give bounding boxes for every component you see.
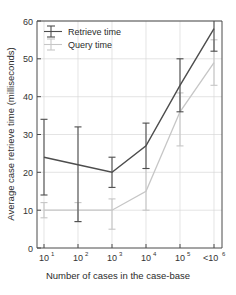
y-tick-label-60: 60 [23, 17, 33, 27]
x-tick-base-3: 10 [107, 253, 117, 263]
y-tick-label-50: 50 [23, 54, 33, 64]
x-tick-base-6: <10 [203, 253, 218, 263]
y-tick-label-40: 40 [23, 92, 33, 102]
x-tick-base-5: 10 [175, 253, 185, 263]
legend-label-retrieve-time: Retrieve time [68, 27, 121, 37]
y-tick-label-30: 30 [23, 130, 33, 140]
y-tick-label-20: 20 [23, 168, 33, 178]
x-tick-base-4: 10 [141, 253, 151, 263]
y-tick-label-0: 0 [28, 244, 33, 254]
chart-figure: 60 50 40 30 20 10 0 10 1 10 2 10 3 10 4 … [0, 0, 236, 295]
y-tick-label-10: 10 [23, 206, 33, 216]
x-tick-base-2: 10 [73, 253, 83, 263]
x-tick-base-1: 10 [39, 253, 49, 263]
legend-label-query-time: Query time [68, 40, 112, 50]
chart-screenshot: 60 50 40 30 20 10 0 10 1 10 2 10 3 10 4 … [0, 0, 236, 295]
y-axis-title: Average case retrieve time (milliseconds… [5, 47, 16, 221]
figure-background [0, 0, 236, 295]
x-axis-title: Number of cases in the case-base [46, 270, 190, 281]
